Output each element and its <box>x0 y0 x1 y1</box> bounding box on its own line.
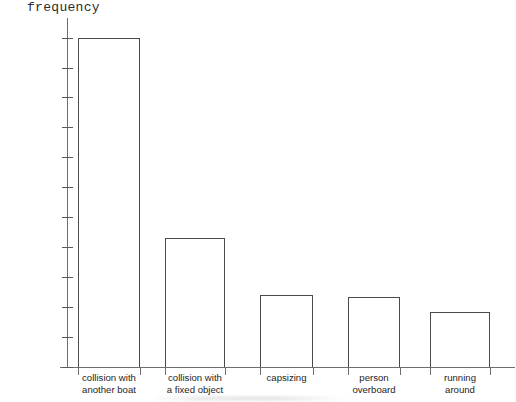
y-axis-title: frequency <box>27 0 100 15</box>
x-axis-baseline <box>60 367 515 368</box>
x-axis-category-label: person overboard <box>324 372 424 395</box>
scan-artifact <box>150 396 350 401</box>
y-axis-tick-mark <box>62 38 73 39</box>
y-axis-tick-mark <box>62 187 73 188</box>
y-axis-tick-mark <box>62 127 73 128</box>
y-axis-tick-mark <box>62 157 73 158</box>
y-axis-tick-mark <box>62 307 73 308</box>
y-axis-tick-mark <box>62 247 73 248</box>
x-axis-category-label: capsizing <box>237 372 337 384</box>
y-axis-tick-mark <box>62 217 73 218</box>
chart-figure: frequency 220020001800160014001200100080… <box>0 0 516 402</box>
bar <box>348 297 400 367</box>
x-axis-category-label: collision with a fixed object <box>145 372 245 395</box>
x-axis-category-label: running around <box>410 372 510 395</box>
bar <box>165 238 225 367</box>
y-axis-tick-mark <box>62 97 73 98</box>
y-axis-tick-mark <box>62 337 73 338</box>
y-axis-tick-mark <box>62 367 73 368</box>
bar <box>260 295 313 367</box>
y-axis-line <box>67 18 68 368</box>
bar <box>430 312 490 367</box>
x-axis-category-label: collision with another boat <box>59 372 159 395</box>
y-axis-tick-mark <box>62 68 73 69</box>
bar <box>78 38 140 368</box>
y-axis-tick-mark <box>62 277 73 278</box>
